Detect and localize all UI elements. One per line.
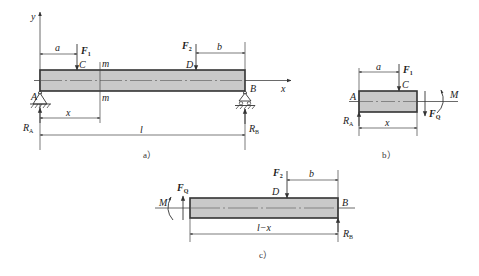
caption-c: c）: [259, 250, 272, 260]
point-d-label: D: [185, 59, 194, 70]
dim-x-label: x: [65, 107, 71, 118]
shear-force-fq-label-b: FQ: [428, 108, 441, 120]
point-d-label-c: D: [271, 186, 280, 197]
point-b-label: B: [250, 83, 256, 94]
reaction-ra-label: RA: [22, 122, 34, 134]
moment-m-arrow-c: [168, 197, 173, 220]
moment-m-label-c: M: [158, 197, 168, 208]
dim-b-label-c: b: [309, 168, 314, 179]
point-b-label-c: B: [342, 197, 348, 208]
y-axis-label: y: [30, 11, 36, 22]
reaction-rb-label-c: RB: [342, 228, 353, 240]
shear-force-fq-label-c: FQ: [176, 182, 189, 194]
force-f1-label-b: F1: [402, 64, 413, 76]
point-c-label-b: C: [402, 79, 409, 90]
dim-l-minus-x-label: l−x: [257, 222, 272, 233]
roller-support-b: [235, 91, 255, 109]
x-axis-label: x: [280, 83, 286, 94]
section-label-bottom: m: [102, 92, 109, 103]
point-a-label-b: A: [349, 91, 357, 102]
dim-l-label: l: [140, 124, 143, 135]
point-c-label: C: [79, 59, 86, 70]
dim-a-label: a: [55, 42, 60, 53]
reaction-ra-label-b: RA: [342, 115, 354, 127]
panel-c: F2 D b B FQ M RB l−x c）: [155, 167, 355, 260]
moment-m-label-b: M: [449, 89, 459, 100]
section-label-top: m: [102, 58, 109, 69]
force-f2-label-c: F2: [272, 167, 283, 179]
force-f2-label: F2: [181, 40, 192, 52]
dim-x-label-b: x: [384, 117, 390, 128]
point-a-label: A: [30, 91, 38, 102]
caption-a: a）: [143, 150, 156, 160]
beam-diagram-canvas: y x a F1 C m m F2 D b: [0, 0, 479, 276]
dim-a-label-b: a: [376, 61, 381, 72]
dim-b-label: b: [217, 41, 222, 52]
force-f1-label: F1: [80, 45, 91, 57]
reaction-rb-label: RB: [248, 123, 259, 135]
caption-b: b）: [382, 150, 396, 160]
panel-a: y x a F1 C m m F2 D b: [22, 11, 291, 160]
panel-b: a F1 C A FQ M RA x b）: [342, 61, 459, 160]
